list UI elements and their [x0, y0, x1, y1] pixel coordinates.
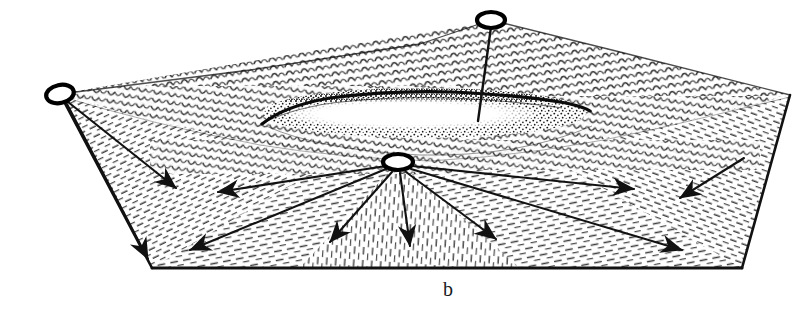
figure-label: b [428, 279, 468, 299]
figure-panel: b [0, 0, 806, 316]
block-diagram-illustration [0, 0, 806, 316]
vent-node-top [477, 12, 505, 28]
vent-node-center [383, 154, 413, 170]
